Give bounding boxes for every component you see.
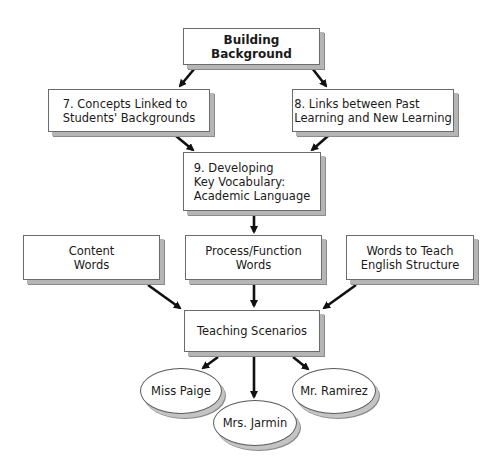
arrow-bb-to-7 xyxy=(180,68,195,86)
node-process-function-words: Process/Function Words xyxy=(185,235,322,280)
arrow-teaching-to-paige xyxy=(203,357,218,368)
node-miss-paige: Miss Paige xyxy=(140,368,222,414)
node-concepts-linked: 7. Concepts Linked to Students' Backgrou… xyxy=(48,89,210,132)
node-english-structure-words: Words to Teach English Structure xyxy=(346,235,474,280)
node-mrs-jarmin: Mrs. Jarmin xyxy=(213,400,297,446)
arrow-7-to-9 xyxy=(176,136,193,150)
node-links-between: 8. Links between Past Learning and New L… xyxy=(292,89,454,132)
node-label: Miss Paige xyxy=(151,384,211,398)
node-label: Mrs. Jarmin xyxy=(223,416,288,430)
node-teaching-scenarios: Teaching Scenarios xyxy=(184,310,320,352)
arrow-bb-to-8 xyxy=(312,68,326,86)
node-label: Building Background xyxy=(211,33,292,61)
arrow-content-to-teaching xyxy=(148,285,180,308)
node-label: Words to Teach English Structure xyxy=(361,244,460,272)
arrow-teaching-to-ramirez xyxy=(293,357,308,369)
node-label: Content Words xyxy=(69,244,115,272)
node-content-words: Content Words xyxy=(23,235,160,280)
node-label: 8. Links between Past Learning and New L… xyxy=(294,97,452,125)
node-label: Teaching Scenarios xyxy=(197,324,307,338)
node-label: Mr. Ramirez xyxy=(300,384,368,398)
node-label: 9. Developing Key Vocabulary: Academic L… xyxy=(194,161,311,203)
node-label: Process/Function Words xyxy=(205,244,301,272)
node-mr-ramirez: Mr. Ramirez xyxy=(292,368,376,414)
node-building-background: Building Background xyxy=(183,28,320,65)
node-label: 7. Concepts Linked to Students' Backgrou… xyxy=(63,97,196,125)
arrow-8-to-9 xyxy=(312,136,328,150)
arrow-structure-to-teaching xyxy=(324,285,356,308)
node-developing-vocabulary: 9. Developing Key Vocabulary: Academic L… xyxy=(183,152,321,211)
